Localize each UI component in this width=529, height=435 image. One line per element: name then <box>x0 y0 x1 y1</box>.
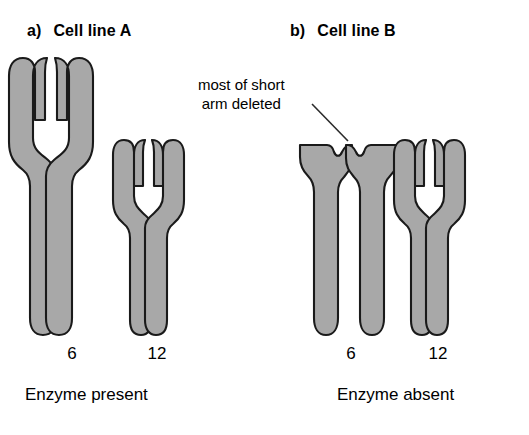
chromosome-b12-shape-right <box>426 140 465 335</box>
chromosome-number-b6: 6 <box>331 344 371 364</box>
chromosome-b6-shape <box>300 145 352 335</box>
chromosome-a12-shape-right <box>145 140 184 335</box>
chromosome-comparison-figure: a)Cell line A b)Cell line B most of shor… <box>0 0 529 435</box>
chromosome-a6-shape-right <box>46 58 93 335</box>
chromosome-number-a12: 12 <box>137 344 177 364</box>
enzyme-caption-a: Enzyme present <box>25 385 148 405</box>
chromosome-number-a6: 6 <box>52 344 92 364</box>
enzyme-caption-b: Enzyme absent <box>337 385 454 405</box>
chromosome-b6-shape-right <box>346 145 398 335</box>
deletion-leader-line <box>312 104 348 141</box>
chromosome-drawing-layer <box>0 0 529 435</box>
chromosome-number-b12: 12 <box>418 344 458 364</box>
